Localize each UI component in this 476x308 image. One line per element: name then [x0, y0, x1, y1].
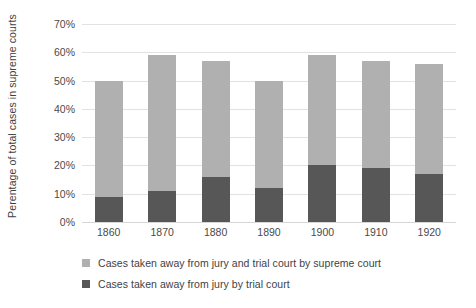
bar-segment[interactable] [415, 174, 443, 222]
gridline-0: 0% [82, 222, 456, 223]
y-tick-label: 20% [54, 159, 75, 171]
bar-segment[interactable] [255, 81, 283, 188]
legend-swatch-icon [82, 259, 90, 267]
x-axis-labels: 1860187018801890190019101920 [82, 226, 456, 246]
bar-segment[interactable] [415, 64, 443, 174]
bar-group[interactable] [95, 81, 123, 222]
legend-item[interactable]: Cases taken away from jury and trial cou… [82, 256, 462, 269]
y-tick-label: 30% [54, 131, 75, 143]
x-tick-label: 1900 [311, 226, 334, 238]
bar-group[interactable] [415, 64, 443, 222]
y-tick-label: 50% [54, 75, 75, 87]
x-tick-label: 1860 [97, 226, 120, 238]
y-tick-label: 40% [54, 103, 75, 115]
bar-group[interactable] [308, 55, 336, 222]
bar-segment[interactable] [95, 81, 123, 197]
bar-segment[interactable] [255, 188, 283, 222]
plot-area: 0%10%20%30%40%50%60%70% [82, 24, 456, 222]
bar-group[interactable] [202, 61, 230, 222]
bar-segment[interactable] [148, 191, 176, 222]
y-tick-label: 0% [60, 216, 75, 228]
y-tick-label: 60% [54, 46, 75, 58]
bars-layer [82, 24, 456, 222]
stacked-bar-chart: Perentage of total cases in supreme cour… [0, 0, 476, 308]
bar-segment[interactable] [202, 61, 230, 177]
x-tick-label: 1880 [204, 226, 227, 238]
bar-segment[interactable] [308, 55, 336, 165]
y-tick-label: 10% [54, 188, 75, 200]
x-tick-label: 1920 [418, 226, 441, 238]
legend-label: Cases taken away from jury by trial cour… [98, 278, 290, 290]
chart-legend: Cases taken away from jury and trial cou… [82, 256, 462, 298]
x-tick-label: 1890 [257, 226, 280, 238]
bar-segment[interactable] [148, 55, 176, 191]
y-axis-title: Perentage of total cases in supreme cour… [0, 0, 24, 232]
y-tick-label: 70% [54, 18, 75, 30]
legend-item[interactable]: Cases taken away from jury by trial cour… [82, 277, 462, 290]
bar-group[interactable] [148, 55, 176, 222]
bar-segment[interactable] [202, 177, 230, 222]
bar-segment[interactable] [362, 168, 390, 222]
legend-swatch-icon [82, 280, 90, 288]
x-tick-label: 1870 [150, 226, 173, 238]
bar-segment[interactable] [95, 197, 123, 222]
legend-label: Cases taken away from jury and trial cou… [98, 257, 381, 269]
x-tick-label: 1910 [364, 226, 387, 238]
bar-segment[interactable] [362, 61, 390, 168]
y-axis-title-label: Perentage of total cases in supreme cour… [6, 14, 18, 218]
bar-group[interactable] [362, 61, 390, 222]
bar-group[interactable] [255, 81, 283, 222]
bar-segment[interactable] [308, 165, 336, 222]
